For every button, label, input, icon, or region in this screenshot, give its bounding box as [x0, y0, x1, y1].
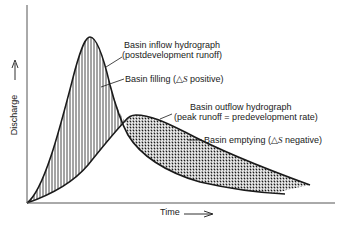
- filling-annotation: Basin filling (△S positive): [125, 74, 223, 84]
- emptying-annotation: Basin emptying (△S negative): [204, 135, 322, 145]
- y-axis-label: Discharge: [9, 85, 19, 145]
- outflow-annotation: Basin outflow hydrograph (peak runoff = …: [174, 102, 318, 122]
- x-axis-label-text: Time: [160, 207, 180, 217]
- outflow-leader: [160, 114, 172, 119]
- inflow-annotation: Basin inflow hydrograph (postdevelopment…: [124, 40, 222, 60]
- outflow-label-line1: Basin outflow hydrograph: [190, 102, 318, 112]
- delta-icon: △: [271, 135, 278, 145]
- filling-label-prefix: Basin filling (: [125, 74, 176, 84]
- outflow-label-line2: (peak runoff = predevelopment rate): [174, 112, 318, 122]
- y-axis-label-text: Discharge: [9, 95, 19, 136]
- delta-icon: △: [176, 74, 183, 84]
- basin-emptying-region: [125, 115, 310, 194]
- basin-filling-region: [27, 37, 125, 203]
- emptying-label-suffix: negative): [282, 135, 322, 145]
- inflow-label-line2: (postdevelopment runoff): [122, 50, 222, 60]
- filling-label-suffix: positive): [187, 74, 223, 84]
- emptying-label-prefix: Basin emptying (: [204, 135, 271, 145]
- inflow-label-line1: Basin inflow hydrograph: [124, 40, 222, 50]
- inflow-leader: [106, 57, 122, 67]
- x-axis-label: Time: [160, 207, 180, 217]
